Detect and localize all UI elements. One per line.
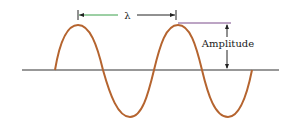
- amplitude-dimension: Amplitude: [178, 23, 254, 69]
- wavelength-dimension: λ: [78, 10, 176, 21]
- wavelength-arrow-right-icon: [170, 13, 175, 17]
- wavelength-arrow-left-icon: [79, 13, 84, 17]
- wavelength-label: λ: [124, 10, 131, 21]
- amplitude-arrow-up-icon: [225, 24, 229, 29]
- amplitude-arrow-down-icon: [225, 64, 229, 69]
- amplitude-label: Amplitude: [201, 38, 254, 49]
- wave-diagram: λ Amplitude: [0, 0, 291, 123]
